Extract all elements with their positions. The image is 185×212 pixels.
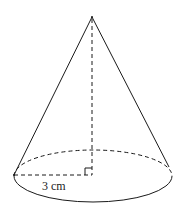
base-back-edge [14,150,172,176]
right-slant-edge [92,17,169,167]
cone-diagram: 3 cm [0,0,185,212]
left-slant-edge [14,17,92,175]
radius-label: 3 cm [42,179,66,193]
right-angle-marker [85,168,92,175]
base-left-point [13,174,15,176]
apex-point [91,16,93,18]
base-front-edge [14,176,172,202]
